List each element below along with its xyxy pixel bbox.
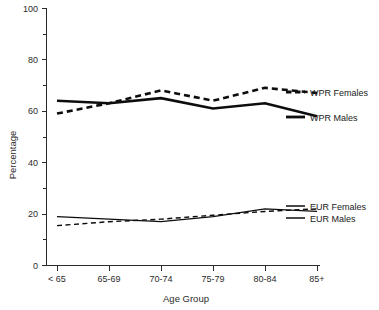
x-tick-label: 80-84	[253, 274, 276, 284]
x-axis-title: Age Group	[163, 293, 209, 304]
x-tick-label: 75-79	[201, 274, 224, 284]
y-tick-label: 100	[23, 4, 38, 14]
x-tick-label: 70-74	[149, 274, 172, 284]
y-tick-label: 80	[28, 55, 38, 65]
chart-background	[0, 0, 379, 310]
x-tick-label: 65-69	[97, 274, 120, 284]
y-tick-label: 20	[28, 209, 38, 219]
y-tick-label: 0	[33, 261, 38, 271]
legend-label-wpr-females: WPR Females	[310, 88, 369, 98]
x-tick-label: < 65	[48, 274, 66, 284]
legend-label-wpr-males: WPR Males	[310, 113, 358, 123]
x-tick-label: 85+	[309, 274, 324, 284]
legend-label-eur-females: EUR Females	[310, 202, 367, 212]
y-tick-label: 60	[28, 106, 38, 116]
y-axis-title: Percentage	[7, 131, 18, 180]
chart-figure: 100 80 60 40 20 0 Percentage < 65 65-69 …	[0, 0, 379, 310]
legend-label-eur-males: EUR Males	[310, 214, 356, 224]
y-tick-label: 40	[28, 158, 38, 168]
